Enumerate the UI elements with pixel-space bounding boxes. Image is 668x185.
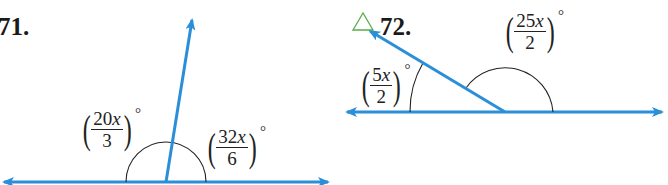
- variable: x: [382, 64, 390, 85]
- variable: x: [112, 108, 120, 129]
- numerator: 20: [93, 108, 112, 129]
- right-paren: ): [123, 108, 131, 152]
- angle-label-25x-over-2: ( 25x 2 ) °: [503, 10, 564, 54]
- variable: x: [237, 126, 245, 147]
- angle-label-5x-over-2: ( 5x 2 ) °: [359, 64, 411, 108]
- denominator: 3: [100, 130, 114, 151]
- diagram-canvas: [0, 0, 668, 185]
- degree-symbol: °: [405, 62, 411, 77]
- numerator: 32: [218, 126, 237, 147]
- denominator: 2: [375, 86, 389, 107]
- problem-number-72: 72.: [380, 14, 411, 39]
- denominator: 6: [225, 148, 239, 169]
- angle-label-20x-over-3: ( 20x 3 ) °: [80, 108, 141, 152]
- degree-symbol: °: [260, 124, 266, 139]
- angle-label-32x-over-6: ( 32x 6 ) °: [205, 126, 266, 170]
- variable: x: [535, 10, 543, 31]
- small-angle-arc-72: [410, 63, 423, 112]
- numerator: 25: [516, 10, 535, 31]
- problem-number-71: 71.: [0, 14, 29, 39]
- right-paren: ): [248, 126, 256, 170]
- degree-symbol: °: [558, 8, 564, 23]
- right-paren: ): [546, 10, 554, 54]
- left-paren: (: [506, 10, 514, 54]
- right-paren: ): [393, 64, 401, 108]
- degree-symbol: °: [135, 106, 141, 121]
- numerator: 5: [372, 64, 382, 85]
- problem-71-figure: [4, 20, 328, 182]
- left-paren: (: [83, 108, 91, 152]
- ray-71: [166, 20, 192, 182]
- large-angle-arc-72: [466, 68, 553, 112]
- denominator: 2: [523, 32, 537, 53]
- triangle-flag-icon: [353, 13, 373, 30]
- left-paren: (: [362, 64, 370, 108]
- left-paren: (: [208, 126, 216, 170]
